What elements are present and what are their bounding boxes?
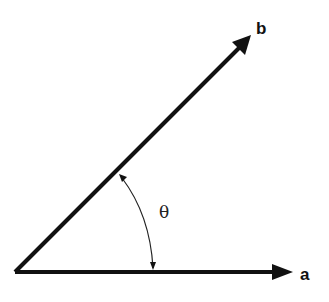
arc-arrow-start-icon: [119, 174, 127, 182]
angle-arc: [119, 174, 156, 270]
angle-theta-label: θ: [159, 204, 169, 221]
vector-b-label: b: [256, 20, 266, 37]
arc-arrow-end-icon: [150, 262, 156, 270]
vector-b: [15, 35, 251, 272]
arrowhead-a-icon: [272, 264, 293, 280]
vector-angle-diagram: [0, 0, 329, 302]
vector-a-label: a: [300, 266, 309, 283]
